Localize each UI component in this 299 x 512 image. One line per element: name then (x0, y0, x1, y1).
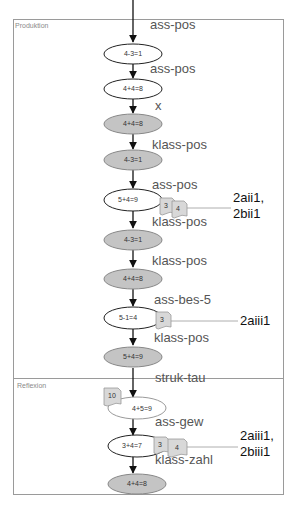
note-label: 4 (176, 205, 180, 212)
edge-label: klass-pos (152, 137, 207, 152)
section-title-produktion: Produktion (15, 22, 49, 29)
edge-label: ass-bes-5 (154, 292, 211, 307)
node-label: 4+4=8 (123, 275, 143, 282)
node[interactable]: 4+4=8 (104, 114, 162, 134)
edge-label: klass-pos (154, 330, 209, 345)
node-label: 4+4=8 (123, 85, 143, 92)
node-label: 4-3=1 (124, 156, 142, 163)
node[interactable]: 5+4=9 (104, 347, 162, 367)
node[interactable]: 4+4=8 (104, 269, 162, 289)
node-label: 5+4=9 (118, 196, 138, 203)
node[interactable]: 4-3=1 (104, 230, 162, 250)
reference-text: 2biii1 (240, 444, 270, 459)
node[interactable]: 5+4=9 (104, 189, 162, 211)
note-group[interactable]: 10 (104, 388, 121, 406)
node[interactable]: 4+4=8 (104, 79, 162, 99)
edge-label: klass-pos (152, 253, 207, 268)
node-label: 4+4=8 (123, 120, 143, 127)
edge-label: ass-pos (152, 177, 198, 192)
note-group[interactable]: 3 (156, 312, 238, 329)
node-label: 5+4=9 (123, 353, 143, 360)
node-label: 4-3=1 (124, 236, 142, 243)
note-label: 10 (108, 392, 116, 399)
reference-text: 2bii1 (233, 206, 260, 221)
edge-label: x (155, 98, 162, 113)
note-label: 3 (160, 316, 164, 323)
section-title-reflexion: Reflexion (17, 382, 46, 389)
note-label: 3 (158, 441, 162, 448)
reference-text: 2aiii1 (240, 313, 270, 328)
edge-label: ass-gew (155, 414, 204, 429)
node-label: 4-3=1 (124, 50, 142, 57)
node-label: 4+5=9 (132, 405, 152, 412)
node[interactable]: 4-3=1 (104, 150, 162, 170)
node[interactable]: 4+4=8 (108, 474, 166, 494)
edge-label: klass-pos (152, 214, 207, 229)
node-label: 4+4=8 (127, 480, 147, 487)
edge-label: ass-pos (150, 61, 196, 76)
edge-label: struk-tau (155, 370, 206, 385)
process-diagram: Produktion Reflexion 4-3=1 4+4=8 4+4=8 4… (0, 0, 299, 512)
reference-text: 2aiii1, (240, 428, 274, 443)
node-label: 3+4=7 (122, 442, 142, 449)
node[interactable]: 5-1=4 (104, 307, 162, 329)
edge-label: ass-pos (150, 17, 196, 32)
reference-text: 2aii1, (233, 190, 264, 205)
node-label: 5-1=4 (119, 314, 137, 321)
note-label: 4 (175, 444, 179, 451)
note-label: 3 (164, 202, 168, 209)
